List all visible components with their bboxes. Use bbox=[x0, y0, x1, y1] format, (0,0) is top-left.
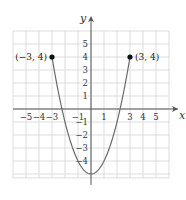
parabola-chart: xy−5−4−3−1134554321−1−2−3−4(−3, 4)(3, 4) bbox=[0, 0, 186, 200]
endpoint-dot bbox=[127, 54, 132, 59]
point-label: (3, 4) bbox=[135, 52, 159, 62]
x-tick-label: −5 bbox=[20, 112, 33, 122]
x-axis-label: x bbox=[179, 109, 186, 122]
y-tick-label: 3 bbox=[83, 65, 88, 75]
y-tick-label: −3 bbox=[75, 143, 88, 153]
y-tick-label: 5 bbox=[83, 39, 88, 49]
y-tick-label: −1 bbox=[75, 117, 88, 127]
point-label: (−3, 4) bbox=[15, 52, 47, 62]
y-tick-label: 2 bbox=[83, 78, 88, 88]
endpoint-dot bbox=[49, 54, 54, 59]
y-tick-label: 4 bbox=[83, 52, 88, 62]
x-tick-label: 5 bbox=[153, 112, 158, 122]
x-tick-label: 1 bbox=[101, 112, 106, 122]
x-tick-label: −4 bbox=[33, 112, 46, 122]
y-tick-label: 1 bbox=[83, 91, 88, 101]
x-tick-label: 3 bbox=[127, 112, 132, 122]
y-axis-label: y bbox=[79, 12, 87, 25]
x-tick-label: −3 bbox=[46, 112, 59, 122]
x-tick-label: 4 bbox=[140, 112, 145, 122]
y-tick-label: −2 bbox=[75, 130, 88, 140]
